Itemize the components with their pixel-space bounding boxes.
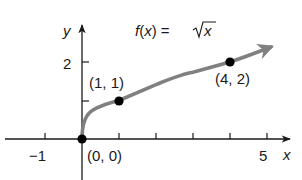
xtick-label-5: 5	[259, 147, 267, 164]
point-4-2	[225, 57, 234, 66]
ytick-label-2: 2	[63, 55, 71, 72]
y-ticks	[82, 62, 89, 101]
sqrt-curve	[82, 47, 271, 139]
point-1-1	[114, 96, 123, 105]
function-title: f(x) = x	[135, 22, 216, 39]
title-sqrt-arg: x	[203, 22, 212, 39]
point-label-1-1: (1, 1)	[89, 74, 124, 91]
xtick-label-neg1: −1	[29, 147, 46, 164]
point-label-4-2: (4, 2)	[215, 70, 250, 87]
x-axis-label: x	[282, 146, 291, 163]
sqrt-function-graph: y x 2 −1 5 (0, 0) (1, 1) (4, 2) f(x) = x	[0, 0, 302, 180]
title-fx: f(x) =	[135, 22, 170, 39]
point-origin	[77, 134, 86, 143]
point-label-origin: (0, 0)	[87, 147, 122, 164]
y-axis-label: y	[62, 22, 72, 39]
